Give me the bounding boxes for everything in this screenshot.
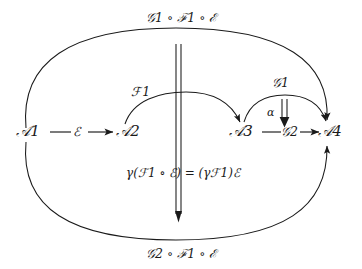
edge-label-epsilon: ℰ — [73, 126, 81, 139]
diagram-canvas — [0, 0, 362, 269]
two-cell-label-gamma-equation: γ(ℱ 1 ∘ ℰ) = (γℱ 1)ℰ — [126, 167, 240, 179]
two-cell-gamma-arrow — [175, 44, 182, 223]
node-a2: 𝒜2 — [116, 124, 140, 139]
node-a3: 𝒜3 — [229, 124, 253, 139]
arc-label-g1: 𝒢1 — [272, 77, 289, 90]
arc-label-bottom-composite: 𝒢2 ∘ ℱ 1 ∘ ℰ — [146, 248, 216, 261]
node-a1: 𝒜1 — [16, 124, 40, 139]
two-cell-label-alpha: α — [267, 107, 274, 118]
math-diagram: 𝒜1 𝒜2 𝒜3 𝒜4 ℰ 𝒢2 ℱ 1 𝒢1 𝒢1 ∘ ℱ 1 ∘ ℰ 𝒢2 … — [0, 0, 362, 269]
edge-label-g2: 𝒢2 — [281, 126, 298, 139]
arc-label-top-composite: 𝒢1 ∘ ℱ 1 ∘ ℰ — [146, 12, 216, 25]
arc-label-f1: ℱ 1 — [131, 86, 150, 99]
node-a4: 𝒜4 — [318, 124, 342, 139]
